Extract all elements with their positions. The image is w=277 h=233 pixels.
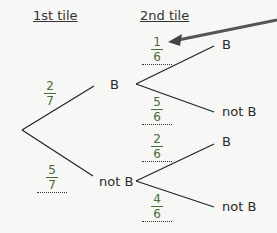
- node-b: B: [110, 77, 119, 92]
- header-second-tile: 2nd tile: [140, 8, 189, 23]
- header-first-tile: 1st tile: [33, 8, 78, 23]
- node-not-b: not B: [99, 174, 133, 189]
- prob-b-not-b: 56: [142, 96, 172, 125]
- node-b-not-b: not B: [222, 104, 256, 119]
- prob-not-b-b: 26: [142, 133, 172, 162]
- prob-not-b: 57: [37, 164, 67, 193]
- node-not-b-not-b: not B: [222, 199, 256, 214]
- prob-not-b-not-b: 46: [142, 193, 172, 222]
- prob-b: 27: [35, 80, 65, 107]
- node-not-b-b: B: [222, 134, 231, 149]
- node-b-b: B: [222, 37, 231, 52]
- prob-b-b: 16: [142, 36, 172, 65]
